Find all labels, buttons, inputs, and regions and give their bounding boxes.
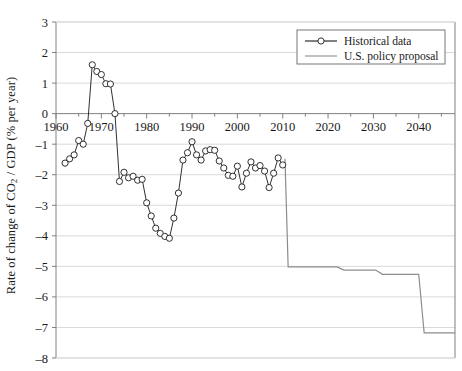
x-tick-label: 1990 [180,120,205,134]
series-historical-data [62,62,286,242]
chart-legend: Historical dataU.S. policy proposal [297,30,445,64]
legend-label: Historical data [344,35,411,47]
data-point-marker [221,165,227,171]
x-tick-label: 1980 [134,120,159,134]
data-point-marker [280,162,286,168]
data-point-marker [139,176,145,182]
x-tick-label: 1960 [44,120,69,134]
data-point-marker [275,155,281,161]
policy-proposal-line [285,159,455,333]
legend-swatch-marker [318,38,324,44]
y-tick-label: 3 [42,16,48,30]
data-point-marker [166,235,172,241]
plot-frame [56,22,455,358]
gridlines-group [56,22,455,358]
data-point-marker [271,170,277,176]
data-point-marker [216,158,222,164]
y-tick-label: –8 [35,352,49,366]
data-point-marker [180,157,186,163]
data-point-marker [71,152,77,158]
data-point-marker [243,170,249,176]
legend-label: U.S. policy proposal [344,50,439,63]
y-tick-labels-group: 3210–1–2–3–4–5–6–7–8 [35,16,49,366]
x-tick-label: 2010 [270,120,295,134]
data-point-marker [107,81,113,87]
data-point-marker [171,215,177,221]
data-point-marker [239,184,245,190]
historical-data-line [65,65,283,238]
data-point-marker [198,157,204,163]
data-point-marker [248,159,254,165]
data-point-marker [89,62,95,68]
data-point-marker [184,150,190,156]
data-point-marker [193,152,199,158]
y-tick-label: 2 [42,46,48,60]
x-tick-labels-group: 196019701980199020002010202020302040 [44,120,432,134]
data-point-marker [261,168,267,174]
data-point-marker [144,200,150,206]
y-tick-label: –2 [35,168,49,182]
data-point-marker [98,71,104,77]
data-point-marker [112,111,118,117]
data-point-marker [257,162,263,168]
y-tick-label: –4 [35,229,49,243]
series-us-policy-proposal [285,159,455,333]
data-point-marker [148,213,154,219]
y-tick-label: –6 [35,290,49,304]
y-tick-marks-group [52,22,56,358]
data-point-marker [234,163,240,169]
x-tick-label: 2030 [361,120,386,134]
y-tick-label: –5 [35,260,49,274]
data-point-marker [153,225,159,231]
y-tick-label: –3 [35,199,49,213]
x-tick-label: 2040 [406,120,431,134]
x-tick-label: 2000 [225,120,250,134]
y-tick-label: –1 [35,138,49,152]
data-point-marker [230,173,236,179]
x-tick-label: 2020 [316,120,341,134]
y-tick-label: –7 [35,321,49,335]
data-point-marker [266,184,272,190]
data-point-marker [80,141,86,147]
data-point-marker [116,178,122,184]
data-point-marker [212,147,218,153]
y-tick-label: 1 [42,77,48,91]
chart-plot: 3210–1–2–3–4–5–6–7–8 1960197019801990200… [0,0,462,371]
data-point-marker [121,169,127,175]
data-point-marker [85,120,91,126]
x-tick-label: 1970 [89,120,114,134]
data-point-marker [189,139,195,145]
chart-container: Rate of change of CO2 / GDP (% per year)… [0,0,462,371]
data-point-marker [175,190,181,196]
